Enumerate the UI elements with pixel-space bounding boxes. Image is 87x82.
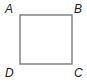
square-diagram: A B C D — [0, 0, 87, 82]
vertex-label-b: B — [74, 2, 82, 16]
square-abcd — [20, 15, 72, 64]
vertex-label-d: D — [5, 66, 14, 80]
vertex-label-a: A — [4, 2, 13, 16]
vertex-label-c: C — [74, 66, 83, 80]
